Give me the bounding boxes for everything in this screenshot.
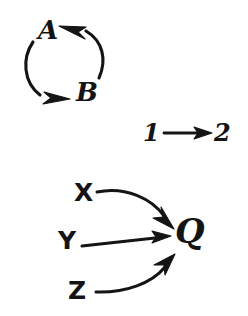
edge-y-to-q xyxy=(82,231,171,246)
node-label-y: Y xyxy=(58,228,76,253)
edge-z-to-q xyxy=(96,254,175,292)
edge-a-to-b-line xyxy=(26,42,40,95)
node-label-1: 1 xyxy=(143,121,160,145)
edge-x-to-q-arrowhead xyxy=(153,207,174,229)
node-label-2: 2 xyxy=(214,121,231,145)
node-label-x: X xyxy=(74,180,93,205)
edge-z-to-q-arrowhead xyxy=(154,254,175,275)
edge-1-to-2 xyxy=(164,127,212,139)
edge-x-to-q xyxy=(97,191,174,229)
edge-b-to-a-arrowhead xyxy=(59,26,86,39)
edge-a-to-b xyxy=(26,42,70,104)
edge-z-to-q-line xyxy=(96,267,165,292)
node-label-b: B xyxy=(76,79,98,105)
diagram-canvas: A B 1 2 X Y Z Q xyxy=(0,0,248,316)
edge-y-to-q-line xyxy=(82,238,155,246)
edge-b-to-a-line xyxy=(86,31,103,78)
edge-x-to-q-line xyxy=(97,191,164,216)
node-label-z: Z xyxy=(68,278,86,303)
node-label-q: Q xyxy=(175,214,205,248)
diagram-arrows xyxy=(0,0,248,316)
edge-b-to-a xyxy=(59,26,103,78)
node-label-a: A xyxy=(38,17,58,43)
edge-a-to-b-arrowhead xyxy=(43,92,70,104)
